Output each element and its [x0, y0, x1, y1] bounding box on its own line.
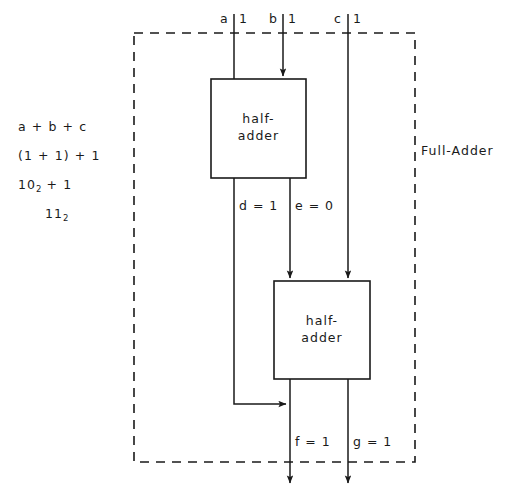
input-label-a-value: 1 [239, 11, 248, 26]
half-adder-2-label: half-adder [274, 312, 370, 346]
output-label-g: g = 1 [353, 434, 392, 449]
full-adder-diagram: a + b + c (1 + 1) + 1 102 + 1 112 [0, 0, 512, 490]
half-adder-2-label-line1: half- [306, 313, 338, 328]
input-label-b-name: b [269, 11, 278, 26]
signal-label-d: d = 1 [239, 198, 278, 213]
full-adder-boundary-label: Full-Adder [421, 143, 494, 158]
signal-label-e: e = 0 [295, 198, 334, 213]
diagram-vector-layer [0, 0, 512, 490]
input-label-a-name: a [220, 11, 229, 26]
half-adder-1-label: half-adder [211, 110, 306, 144]
half-adder-1-label-line2: adder [238, 128, 279, 143]
input-label-c-name: c [334, 11, 342, 26]
half-adder-1-label-line1: half- [242, 111, 274, 126]
input-label-b-value: 1 [288, 11, 297, 26]
half-adder-2-label-line2: adder [301, 330, 342, 345]
input-label-c-value: 1 [353, 11, 362, 26]
output-label-f: f = 1 [295, 434, 331, 449]
